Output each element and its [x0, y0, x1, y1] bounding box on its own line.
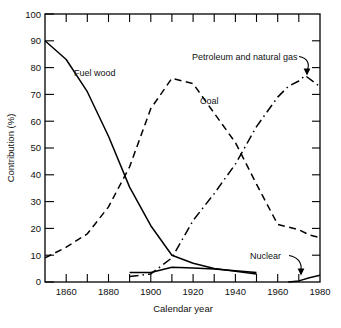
x-tick-label-1920: 1920 [183, 286, 204, 297]
series-label-coal: Coal [200, 96, 219, 106]
x-tick-label-1940: 1940 [225, 286, 246, 297]
x-tick-label-1880: 1880 [98, 286, 119, 297]
series-label-nuclear: Nuclear [250, 251, 281, 261]
series-label-petroleum-natural-gas: Petroleum and natural gas [192, 52, 298, 62]
y-tick-label-20: 20 [30, 223, 41, 234]
y-axis-title: Contribution (%) [5, 114, 16, 183]
x-tick-label-1960: 1960 [267, 286, 288, 297]
chart-background [0, 0, 341, 328]
x-tick-label-1980: 1980 [309, 286, 330, 297]
y-tick-label-50: 50 [30, 142, 41, 153]
y-tick-label-70: 70 [30, 89, 41, 100]
y-tick-label-60: 60 [30, 116, 41, 127]
y-tick-label-30: 30 [30, 196, 41, 207]
y-tick-label-100: 100 [25, 9, 41, 20]
y-tick-label-90: 90 [30, 35, 41, 46]
x-tick-label-1900: 1900 [140, 286, 161, 297]
series-label-fuel-wood: Fuel wood [74, 68, 116, 78]
y-tick-label-80: 80 [30, 62, 41, 73]
x-axis-title: Calendar year [153, 303, 213, 314]
chart-container: 0 10 20 30 40 50 60 70 80 90 100 [0, 0, 341, 328]
x-tick-label-1860: 1860 [56, 286, 77, 297]
y-tick-label-10: 10 [30, 250, 41, 261]
y-tick-label-0: 0 [36, 276, 41, 287]
energy-contribution-line-chart: 0 10 20 30 40 50 60 70 80 90 100 [0, 0, 341, 328]
y-tick-label-40: 40 [30, 169, 41, 180]
